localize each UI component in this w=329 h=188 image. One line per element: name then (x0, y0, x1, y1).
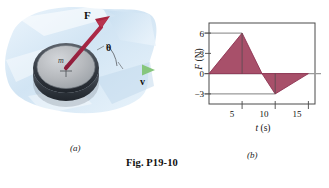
force-vector-label: F (84, 9, 91, 21)
ice-surface-graphic (0, 0, 165, 150)
panel-a-illustration: F θ v m (0, 0, 165, 150)
angle-theta-label: θ (106, 42, 111, 53)
panel-a-caption: (a) (70, 143, 81, 153)
mass-label: m (58, 56, 64, 65)
force-time-plot (180, 10, 325, 150)
figure-caption: Fig. P19-10 (126, 157, 178, 168)
panel-b-chart: 6 3 0 −3 5 10 15 F (N) t (s) (180, 10, 325, 150)
velocity-vector-label: v (140, 76, 145, 87)
panel-b-caption: (b) (247, 150, 258, 160)
figure-p19-10: F θ v m 6 3 0 −3 5 10 15 F (N) t (s) (0, 0, 329, 188)
